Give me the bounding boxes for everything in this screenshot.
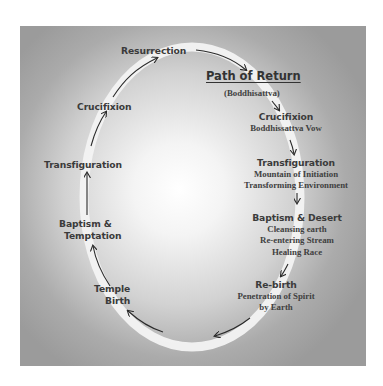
label-baptism-temptation: Baptism & Temptation xyxy=(59,219,121,243)
label-temple-birth: Temple Birth xyxy=(94,284,130,308)
stage-crucifixion: Crucifixion Boddhissattva Vow xyxy=(236,112,336,135)
cycle-ring xyxy=(0,0,383,386)
stage-baptism-desert: Baptism & Desert Cleansing earth Re-ente… xyxy=(240,213,354,259)
stage-rebirth: Re-birth Penetration of Spirit by Earth xyxy=(224,280,328,315)
label-crucifixion-left: Crucifixion xyxy=(77,102,131,111)
stage-transfiguration: Transfiguration Mountain of Initiation T… xyxy=(232,158,360,193)
diagram-subtitle: (Boddhisattva) xyxy=(224,89,280,98)
label-transfiguration-left: Transfiguration xyxy=(44,160,122,169)
diagram-title: Path of Return xyxy=(206,71,301,83)
label-resurrection: Resurrection xyxy=(121,46,186,55)
